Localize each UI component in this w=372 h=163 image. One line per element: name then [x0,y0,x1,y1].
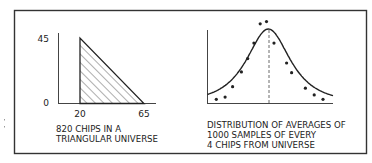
margin-mark [4,126,5,128]
sample-point [259,22,262,25]
sample-point [246,57,249,60]
sample-point [215,98,218,101]
caption-line: 1000 SAMPLES OF EVERY [207,130,317,140]
y-tick-label: 0 [43,98,49,108]
y-tick-label: 45 [38,34,49,44]
caption-line: 820 CHIPS IN A [56,124,121,134]
sample-point [265,20,268,23]
sample-point [321,98,324,101]
x-tick-label: 65 [138,109,149,119]
caption-line: 4 CHIPS FROM UNIVERSE [207,140,315,150]
caption-line: TRIANGULAR UNIVERSE [55,134,158,144]
sample-point [313,93,316,96]
x-tick-label: 20 [74,109,86,119]
sample-point [285,61,288,64]
distribution-chart: DISTRIBUTION OF AVERAGES OF 1000 SAMPLES… [207,20,346,150]
triangle-universe [80,38,144,104]
sample-point [252,42,255,45]
sample-point [224,96,227,99]
sample-point [240,70,243,73]
sample-point [290,71,293,74]
sample-point [231,85,234,88]
margin-mark [4,119,5,121]
fitted-curve [208,29,334,96]
caption-line: DISTRIBUTION OF AVERAGES OF [207,120,346,130]
figure: 45 0 20 65 820 CHIPS IN A TRIANGULAR UNI… [0,0,372,163]
sample-point [272,42,275,45]
sample-point [304,87,307,90]
triangle-chart: 45 0 20 65 820 CHIPS IN A TRIANGULAR UNI… [38,33,158,144]
